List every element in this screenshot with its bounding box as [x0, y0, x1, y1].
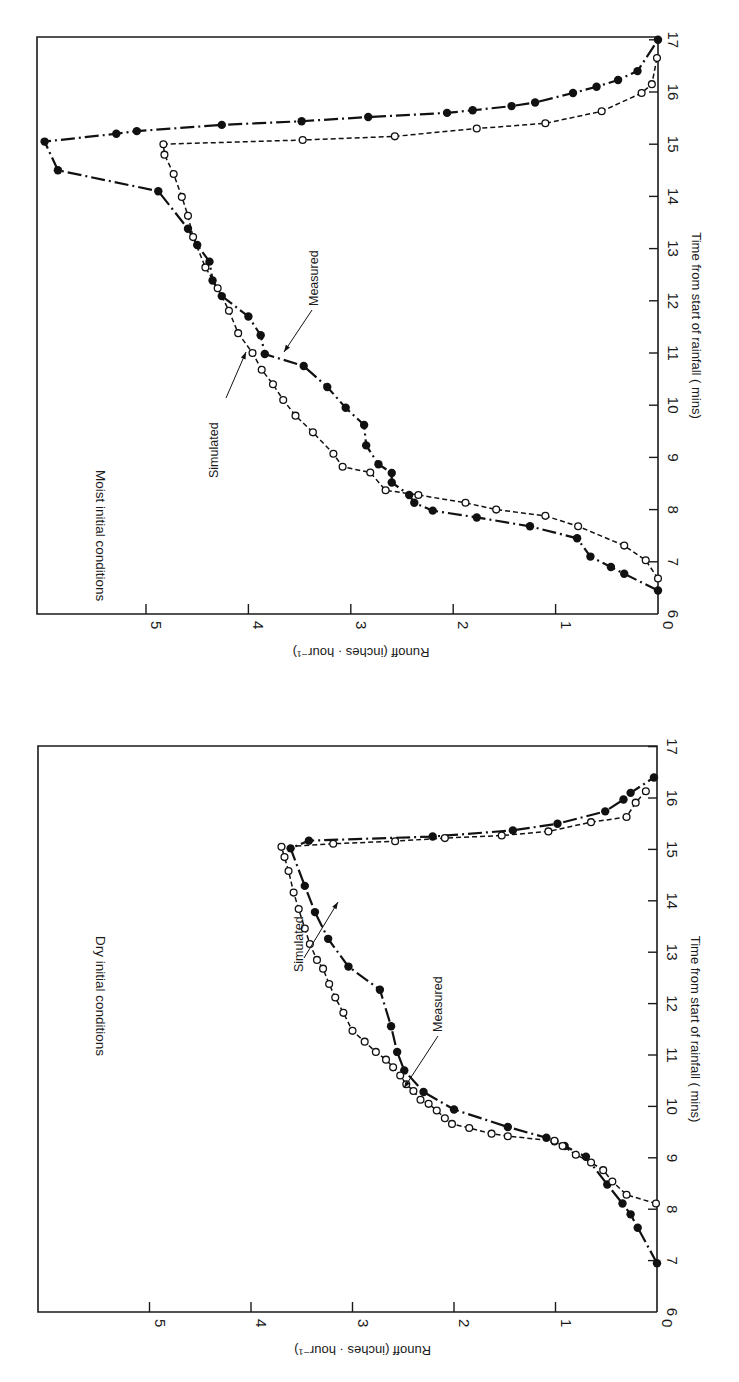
- simulated-data-point: [559, 1143, 566, 1150]
- simulated-data-point: [332, 994, 339, 1001]
- simulated-data-point: [410, 1088, 417, 1095]
- measured-data-point: [531, 98, 539, 106]
- simulated-data-point: [466, 1125, 473, 1132]
- time-tick-label: 17: [665, 31, 682, 48]
- measured-annotation: Measured: [307, 250, 321, 306]
- measured-data-point: [450, 1105, 458, 1113]
- simulated-data-point: [190, 234, 197, 241]
- simulated-data-point: [488, 1130, 495, 1137]
- simulated-data-point: [372, 1049, 379, 1056]
- measured-data-point: [573, 534, 581, 542]
- measured-data-point: [592, 83, 600, 91]
- arrowhead-icon: [241, 352, 246, 359]
- simulated-data-point: [310, 429, 317, 436]
- measured-series-line: [291, 777, 657, 1263]
- arrowhead-icon: [332, 902, 338, 909]
- time-tick-label: 16: [665, 84, 682, 101]
- measured-data-point: [376, 986, 384, 994]
- simulated-data-point: [270, 381, 277, 388]
- measured-annotation: Measured: [431, 976, 445, 1032]
- measured-data-point: [504, 1123, 512, 1131]
- runoff-tick-label: 4: [253, 1319, 270, 1327]
- chart-moist-initial-conditions: 01234567891011121314151617Time from star…: [0, 0, 739, 690]
- measured-data-point: [374, 460, 382, 468]
- measured-data-point: [569, 89, 577, 97]
- simulated-data-point: [349, 1027, 356, 1034]
- simulated-data-point: [202, 264, 209, 271]
- simulated-data-point: [392, 838, 399, 845]
- measured-data-point: [341, 404, 349, 412]
- measured-data-point: [607, 563, 615, 571]
- simulated-data-point: [642, 788, 649, 795]
- measured-data-point: [286, 844, 294, 852]
- simulated-data-point: [390, 1064, 397, 1071]
- simulated-data-point: [433, 1107, 440, 1114]
- measured-data-point: [654, 586, 662, 594]
- time-tick-label: 13: [665, 240, 682, 257]
- measured-data-point: [54, 166, 62, 174]
- measured-data-point: [601, 807, 609, 815]
- measured-data-point: [261, 350, 269, 358]
- measured-data-point: [364, 113, 372, 121]
- measured-data-point: [301, 882, 309, 890]
- time-tick-label: 15: [665, 136, 682, 153]
- simulated-data-point: [415, 492, 422, 499]
- plot-frame: [37, 37, 658, 614]
- measured-data-point: [324, 935, 332, 943]
- measured-data-point: [410, 499, 418, 507]
- time-tick-label: 12: [664, 995, 681, 1012]
- measured-data-point: [654, 36, 662, 44]
- time-tick-label: 7: [664, 1256, 681, 1264]
- simulated-data-point: [290, 889, 297, 896]
- measured-data-point: [633, 67, 641, 75]
- simulated-data-point: [473, 125, 480, 132]
- simulated-data-point: [600, 1167, 607, 1174]
- simulated-data-point: [258, 366, 265, 373]
- simulated-data-point: [654, 55, 661, 62]
- runoff-tick-label: 2: [455, 621, 472, 629]
- simulated-data-point: [299, 137, 306, 144]
- measured-data-point: [393, 1048, 401, 1056]
- measured-arrow-icon: [284, 310, 312, 352]
- simulated-data-point: [320, 965, 327, 972]
- simulated-data-point: [285, 868, 292, 875]
- time-axis-label: Time from start of rainfall ( mins): [689, 232, 704, 419]
- measured-data-point: [626, 789, 634, 797]
- simulated-data-point: [249, 350, 256, 357]
- simulated-data-point: [330, 840, 337, 847]
- time-tick-label: 14: [665, 188, 682, 205]
- measured-arrow-icon: [404, 1036, 438, 1088]
- measured-data-point: [218, 121, 226, 129]
- time-tick-label: 6: [664, 1308, 681, 1316]
- chart-canvas-dry: 01234567891011121314151617Time from star…: [0, 690, 739, 1382]
- measured-data-point: [299, 362, 307, 370]
- simulated-data-point: [449, 1120, 456, 1127]
- simulated-data-point: [160, 141, 167, 148]
- simulated-data-point: [185, 212, 192, 219]
- measured-data-point: [619, 795, 627, 803]
- measured-data-point: [244, 312, 252, 320]
- simulated-data-point: [609, 1178, 616, 1185]
- time-tick-label: 12: [665, 292, 682, 309]
- simulated-data-point: [425, 1100, 432, 1107]
- measured-series-line: [45, 40, 658, 591]
- simulated-data-point: [498, 832, 505, 839]
- measured-data-point: [507, 102, 515, 110]
- time-tick-label: 14: [664, 892, 681, 909]
- time-tick-label: 8: [665, 505, 682, 513]
- simulated-arrow-icon: [304, 902, 338, 958]
- time-tick-label: 11: [664, 1047, 681, 1063]
- runoff-tick-label: 3: [353, 621, 370, 629]
- measured-data-point: [620, 570, 628, 578]
- simulated-data-point: [588, 1159, 595, 1166]
- simulated-data-point: [383, 1056, 390, 1063]
- simulated-data-point: [572, 1151, 579, 1158]
- time-tick-label: 17: [664, 738, 681, 755]
- simulated-data-point: [504, 1133, 511, 1140]
- simulated-data-point: [621, 542, 628, 549]
- simulated-annotation: Simulated: [292, 916, 306, 972]
- measured-data-point: [362, 441, 370, 449]
- measured-data-point: [323, 383, 331, 391]
- simulated-data-point: [542, 512, 549, 519]
- time-tick-label: 8: [664, 1205, 681, 1213]
